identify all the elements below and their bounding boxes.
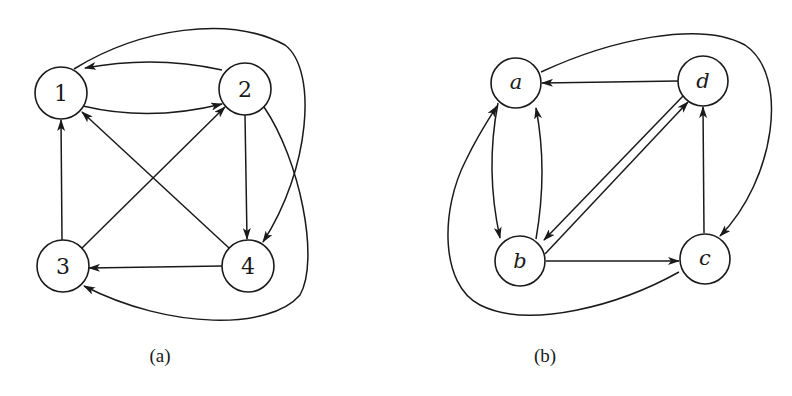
node-2: 2 <box>219 63 271 115</box>
edge-4-to-1 <box>82 112 229 248</box>
node-label: c <box>699 246 711 270</box>
edge-c-to-a <box>448 106 679 315</box>
edge-1-to-2 <box>83 104 222 114</box>
edge-d-to-a <box>542 81 678 83</box>
panel-b: a d b c (b) <box>448 34 772 367</box>
figure-canvas: 1 2 3 4 (a) a <box>0 0 792 396</box>
edge-3-to-1 <box>61 120 62 240</box>
edge-b-to-a <box>536 108 542 239</box>
node-a: a <box>491 58 541 108</box>
edge-a-to-b <box>492 103 500 238</box>
edge-b-to-d <box>545 102 688 254</box>
node-label: a <box>510 70 523 94</box>
node-label: 3 <box>56 254 70 279</box>
node-label: d <box>696 69 709 93</box>
caption-b: (b) <box>534 345 556 367</box>
node-label: 1 <box>54 81 68 106</box>
edge-4-to-3 <box>89 266 222 268</box>
edge-c-to-d <box>703 107 704 233</box>
caption-a: (a) <box>149 345 170 367</box>
edge-1-to-4 <box>74 29 305 242</box>
node-b: b <box>495 236 545 286</box>
edge-2-to-4 <box>245 115 247 239</box>
node-d: d <box>678 56 728 106</box>
edge-2-to-1 <box>85 62 222 70</box>
node-label: 2 <box>238 77 252 102</box>
node-label: 4 <box>241 254 255 279</box>
node-3: 3 <box>37 240 89 292</box>
edge-d-to-b <box>544 95 684 240</box>
node-c: c <box>680 234 730 284</box>
node-label: b <box>513 249 526 273</box>
node-1: 1 <box>35 67 87 119</box>
node-4: 4 <box>222 240 274 292</box>
panel-a: 1 2 3 4 (a) <box>35 29 308 367</box>
